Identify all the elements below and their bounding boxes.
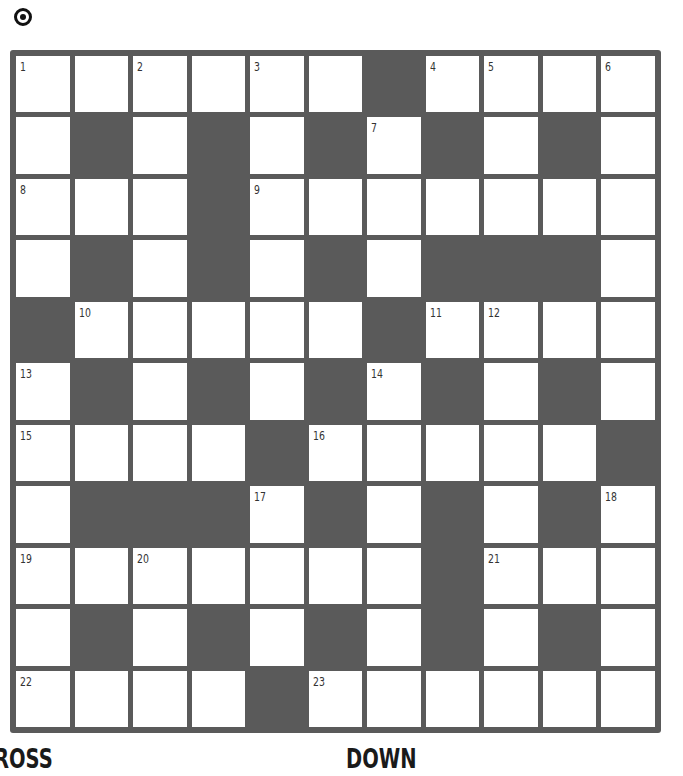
grid-cell[interactable] — [133, 425, 187, 481]
grid-cell[interactable]: 10 — [75, 302, 129, 358]
grid-cell[interactable] — [601, 363, 655, 419]
black-square — [75, 117, 129, 173]
grid-cell[interactable] — [543, 179, 597, 235]
grid-cell[interactable] — [426, 671, 480, 727]
grid-cell[interactable] — [250, 363, 304, 419]
grid-cell[interactable] — [367, 671, 421, 727]
grid-cell[interactable]: 11 — [426, 302, 480, 358]
grid-cell[interactable]: 14 — [367, 363, 421, 419]
grid-cell[interactable]: 2 — [133, 56, 187, 112]
grid-cell[interactable]: 22 — [16, 671, 70, 727]
grid-cell[interactable] — [601, 240, 655, 296]
grid-cell[interactable] — [484, 363, 538, 419]
grid-cell[interactable]: 1 — [16, 56, 70, 112]
grid-cell[interactable] — [601, 302, 655, 358]
grid-cell[interactable] — [484, 425, 538, 481]
grid-cell[interactable] — [601, 179, 655, 235]
grid-cell[interactable] — [484, 671, 538, 727]
black-square — [309, 363, 363, 419]
grid-cell[interactable] — [543, 302, 597, 358]
grid-cell[interactable]: 20 — [133, 548, 187, 604]
grid-cell[interactable]: 19 — [16, 548, 70, 604]
grid-cell[interactable] — [601, 117, 655, 173]
grid-cell[interactable] — [367, 609, 421, 665]
grid-cell[interactable] — [367, 425, 421, 481]
grid-cell[interactable] — [367, 548, 421, 604]
clue-number: 23 — [313, 674, 325, 689]
clue-number: 8 — [20, 182, 26, 197]
grid-cell[interactable]: 8 — [16, 179, 70, 235]
grid-cell[interactable]: 17 — [250, 486, 304, 542]
grid-cell[interactable] — [133, 671, 187, 727]
grid-cell[interactable]: 18 — [601, 486, 655, 542]
clue-number: 21 — [488, 551, 500, 566]
grid-cell[interactable] — [75, 548, 129, 604]
grid-cell[interactable]: 13 — [16, 363, 70, 419]
grid-cell[interactable] — [250, 240, 304, 296]
grid-cell[interactable] — [367, 240, 421, 296]
grid-cell[interactable] — [75, 56, 129, 112]
grid-cell[interactable] — [484, 179, 538, 235]
grid-cell[interactable] — [133, 302, 187, 358]
grid-cell[interactable] — [309, 302, 363, 358]
grid-cell[interactable] — [543, 671, 597, 727]
grid-cell[interactable] — [484, 486, 538, 542]
grid-cell[interactable] — [367, 486, 421, 542]
black-square — [192, 363, 246, 419]
grid-cell[interactable] — [309, 56, 363, 112]
grid-cell[interactable]: 5 — [484, 56, 538, 112]
clue-number: 14 — [371, 366, 383, 381]
grid-cell[interactable] — [426, 425, 480, 481]
grid-cell[interactable]: 3 — [250, 56, 304, 112]
grid-cell[interactable] — [601, 671, 655, 727]
grid-cell[interactable] — [250, 609, 304, 665]
grid-cell[interactable]: 16 — [309, 425, 363, 481]
grid-cell[interactable] — [601, 548, 655, 604]
grid-cell[interactable]: 12 — [484, 302, 538, 358]
grid-cell[interactable] — [133, 117, 187, 173]
black-square — [543, 240, 597, 296]
grid-cell[interactable]: 7 — [367, 117, 421, 173]
black-square — [426, 240, 480, 296]
grid-cell[interactable] — [192, 548, 246, 604]
grid-cell[interactable] — [543, 548, 597, 604]
grid-cell[interactable] — [484, 117, 538, 173]
grid-cell[interactable] — [543, 56, 597, 112]
grid-cell[interactable] — [75, 671, 129, 727]
grid-cell[interactable]: 23 — [309, 671, 363, 727]
black-square — [309, 117, 363, 173]
grid-cell[interactable] — [309, 548, 363, 604]
grid-cell[interactable] — [16, 240, 70, 296]
grid-cell[interactable] — [601, 609, 655, 665]
black-square — [543, 117, 597, 173]
grid-cell[interactable] — [133, 179, 187, 235]
grid-cell[interactable] — [75, 179, 129, 235]
black-square — [250, 671, 304, 727]
grid-cell[interactable] — [16, 117, 70, 173]
grid-cell[interactable] — [250, 302, 304, 358]
grid-cell[interactable] — [426, 179, 480, 235]
grid-cell[interactable] — [192, 425, 246, 481]
grid-cell[interactable] — [543, 425, 597, 481]
black-square — [484, 240, 538, 296]
grid-cell[interactable] — [133, 240, 187, 296]
grid-cell[interactable] — [16, 609, 70, 665]
grid-cell[interactable]: 21 — [484, 548, 538, 604]
grid-cell[interactable] — [309, 179, 363, 235]
grid-cell[interactable] — [133, 609, 187, 665]
grid-cell[interactable] — [250, 117, 304, 173]
grid-cell[interactable] — [192, 671, 246, 727]
grid-cell[interactable]: 9 — [250, 179, 304, 235]
grid-cell[interactable] — [192, 56, 246, 112]
grid-cell[interactable]: 6 — [601, 56, 655, 112]
grid-cell[interactable] — [484, 609, 538, 665]
clue-number: 17 — [254, 489, 266, 504]
grid-cell[interactable] — [75, 425, 129, 481]
grid-cell[interactable] — [16, 486, 70, 542]
grid-cell[interactable] — [192, 302, 246, 358]
grid-cell[interactable] — [250, 548, 304, 604]
grid-cell[interactable]: 4 — [426, 56, 480, 112]
grid-cell[interactable]: 15 — [16, 425, 70, 481]
grid-cell[interactable] — [133, 363, 187, 419]
grid-cell[interactable] — [367, 179, 421, 235]
